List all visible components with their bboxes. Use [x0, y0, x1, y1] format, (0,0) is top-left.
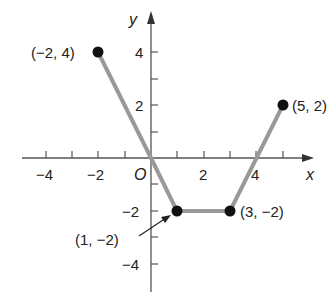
point-1-neg2 — [172, 206, 183, 217]
y-axis-label: y — [128, 11, 138, 28]
y-axis: 4 2 −2 −4 y O — [122, 11, 158, 292]
x-ticks — [46, 151, 283, 158]
y-tick-label-2: 2 — [135, 97, 143, 114]
x-axis: −4 −2 2 4 x — [22, 151, 315, 183]
callout-arrow-icon — [139, 215, 171, 236]
point-3-neg2 — [225, 206, 236, 217]
x-tick-label-neg2: −2 — [87, 166, 104, 183]
point-5-2 — [278, 100, 289, 111]
x-tick-label-neg4: −4 — [36, 166, 53, 183]
point-label-5-2: (5, 2) — [292, 97, 327, 114]
function-line — [98, 52, 283, 211]
y-tick-label-neg2: −2 — [122, 203, 139, 220]
x-tick-label-2: 2 — [199, 166, 207, 183]
point-label-3-neg2: (3, −2) — [240, 203, 284, 220]
y-tick-label-neg4: −4 — [122, 256, 139, 273]
x-axis-label: x — [305, 166, 315, 183]
function-graph: −4 −2 2 4 x 4 2 −2 −4 y O (−2, 4) (5, 2) — [0, 0, 327, 296]
point-neg2-4 — [93, 47, 104, 58]
point-label-1-neg2: (1, −2) — [75, 231, 119, 248]
y-tick-label-4: 4 — [135, 44, 143, 61]
point-label-neg2-4: (−2, 4) — [31, 44, 75, 61]
x-axis-arrow-icon — [302, 154, 314, 162]
y-axis-arrow-icon — [147, 11, 155, 24]
origin-label: O — [134, 166, 146, 183]
